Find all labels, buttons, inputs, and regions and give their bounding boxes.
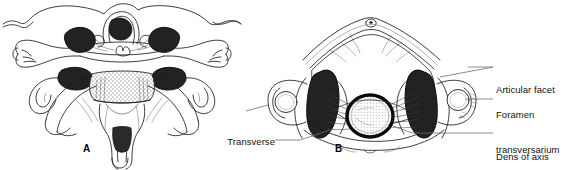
label-line: Transverse <box>200 136 275 148</box>
panel-b-dens <box>347 95 393 137</box>
label-transverse-ligament-of-atlas: Transverse ligament of atlas <box>200 113 275 170</box>
label-dens-of-axis: Dens of axis <box>496 128 549 170</box>
panel-letter-a: A <box>83 143 90 154</box>
label-line: Foramen <box>496 109 560 121</box>
label-line: Dens of axis <box>496 151 549 163</box>
panel-letter-b: B <box>335 143 342 154</box>
